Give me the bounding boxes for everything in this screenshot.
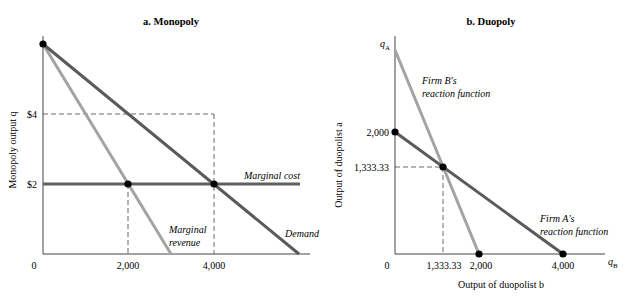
data-point xyxy=(124,180,131,187)
data-point xyxy=(439,163,446,170)
x-axis-symbol: qB xyxy=(608,256,618,270)
firm-b-reaction-label: reaction function xyxy=(422,88,490,99)
data-point xyxy=(210,180,217,187)
x-tick-label: 2,000 xyxy=(117,260,140,271)
marginal-revenue-label: revenue xyxy=(169,237,201,248)
x-tick-label: 0 xyxy=(32,260,37,271)
figure: a. Monopoly $4 $2 0 2,000 4,000 Monopoly… xyxy=(0,0,629,298)
y-tick-label: 2,000 xyxy=(367,127,390,138)
firm-a-reaction-label: Firm A's xyxy=(539,213,575,224)
y-tick-label: 1,333.33 xyxy=(354,162,389,173)
y-tick-label: $4 xyxy=(27,109,37,120)
x-tick-label: 4,000 xyxy=(203,260,226,271)
y-axis-symbol: qA xyxy=(380,38,390,52)
x-axis-label: Output of duopolist b xyxy=(458,279,544,290)
x-tick-label: 0 xyxy=(385,260,390,271)
marginal-revenue-line xyxy=(43,44,171,254)
demand-line xyxy=(43,44,299,254)
marginal-cost-label: Marginal cost xyxy=(243,170,300,181)
y-axis-label: Output of duopolist a xyxy=(333,122,344,208)
y-tick-label: $2 xyxy=(27,179,37,190)
firm-b-reaction-label: Firm B's xyxy=(421,75,457,86)
panel-title: a. Monopoly xyxy=(143,16,200,27)
x-tick-label: 1,333.33 xyxy=(427,260,462,271)
data-point xyxy=(559,250,566,257)
demand-label: Demand xyxy=(284,228,320,239)
marginal-revenue-label: Marginal xyxy=(168,224,207,235)
data-point xyxy=(39,40,46,47)
panel-title: b. Duopoly xyxy=(466,16,516,27)
x-tick-label: 4,000 xyxy=(552,260,575,271)
firm-a-reaction-line xyxy=(395,132,563,254)
y-axis-label: Monopoly output q xyxy=(7,111,18,188)
panel-duopoly: b. Duopoly qA qB 2,000 1,333.33 0 1,333.… xyxy=(333,16,618,290)
data-point xyxy=(391,128,398,135)
x-tick-label: 2,000 xyxy=(470,260,493,271)
data-point xyxy=(475,250,482,257)
panel-monopoly: a. Monopoly $4 $2 0 2,000 4,000 Monopoly… xyxy=(7,16,320,271)
firm-a-reaction-label: reaction function xyxy=(540,226,608,237)
